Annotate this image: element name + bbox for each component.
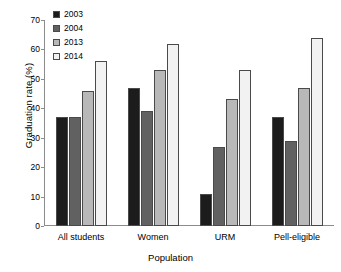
bar-2004-women[interactable] — [141, 111, 153, 226]
y-tick-mark-60 — [41, 49, 44, 50]
bar-2004-pell-eligible[interactable] — [285, 141, 297, 226]
legend-item-2014[interactable]: 2014 — [53, 50, 83, 63]
legend-swatch-icon-2003 — [53, 11, 60, 18]
y-tick-mark-70 — [41, 20, 44, 21]
bar-2013-pell-eligible[interactable] — [298, 88, 310, 226]
bar-2004-urm[interactable] — [213, 147, 225, 226]
y-tick-mark-50 — [41, 79, 44, 80]
y-tick-label-20: 20 — [10, 163, 40, 172]
bar-2013-urm[interactable] — [226, 99, 238, 226]
bar-2003-pell-eligible[interactable] — [272, 117, 284, 226]
plot-area: 010203040506070 — [44, 20, 332, 226]
legend-swatch-icon-2014 — [53, 53, 60, 60]
x-tick-label-urm: URM — [215, 232, 236, 242]
bar-chart-figure: Graduation rate (%) 010203040506070 All … — [0, 0, 341, 272]
legend-item-2003[interactable]: 2003 — [53, 8, 83, 21]
y-tick-label-50: 50 — [10, 75, 40, 84]
y-tick-label-40: 40 — [10, 104, 40, 113]
x-tick-label-pell-eligible: Pell-eligible — [274, 232, 320, 242]
x-axis-label: Population — [0, 252, 341, 263]
y-tick-mark-40 — [41, 108, 44, 109]
y-tick-label-10: 10 — [10, 192, 40, 201]
y-tick-mark-10 — [41, 197, 44, 198]
legend-label: 2003 — [64, 10, 83, 19]
legend-swatch-icon-2004 — [53, 25, 60, 32]
bar-2004-all-students[interactable] — [69, 117, 81, 226]
bar-2014-women[interactable] — [167, 44, 179, 226]
bar-2003-women[interactable] — [128, 88, 140, 226]
y-tick-mark-30 — [41, 138, 44, 139]
bar-group — [128, 20, 179, 226]
legend-label: 2004 — [64, 24, 83, 33]
bar-2003-urm[interactable] — [200, 194, 212, 226]
bar-2003-all-students[interactable] — [56, 117, 68, 226]
bar-2014-pell-eligible[interactable] — [311, 38, 323, 226]
y-tick-label-70: 70 — [10, 16, 40, 25]
bar-group — [272, 20, 323, 226]
y-tick-label-60: 60 — [10, 45, 40, 54]
x-tick-label-all-students: All students — [58, 232, 105, 242]
legend: 2003200420132014 — [53, 8, 83, 64]
y-tick-label-0: 0 — [10, 222, 40, 231]
legend-label: 2014 — [64, 52, 83, 61]
bar-2013-all-students[interactable] — [82, 91, 94, 226]
y-tick-mark-0 — [41, 226, 44, 227]
bar-2014-urm[interactable] — [239, 70, 251, 226]
bar-group — [200, 20, 251, 226]
legend-label: 2013 — [64, 38, 83, 47]
legend-item-2004[interactable]: 2004 — [53, 22, 83, 35]
bar-2014-all-students[interactable] — [95, 61, 107, 226]
legend-item-2013[interactable]: 2013 — [53, 36, 83, 49]
bar-groups — [45, 20, 332, 226]
bar-2013-women[interactable] — [154, 70, 166, 226]
x-tick-label-women: Women — [138, 232, 169, 242]
y-tick-label-30: 30 — [10, 133, 40, 142]
legend-swatch-icon-2013 — [53, 39, 60, 46]
y-tick-mark-20 — [41, 167, 44, 168]
